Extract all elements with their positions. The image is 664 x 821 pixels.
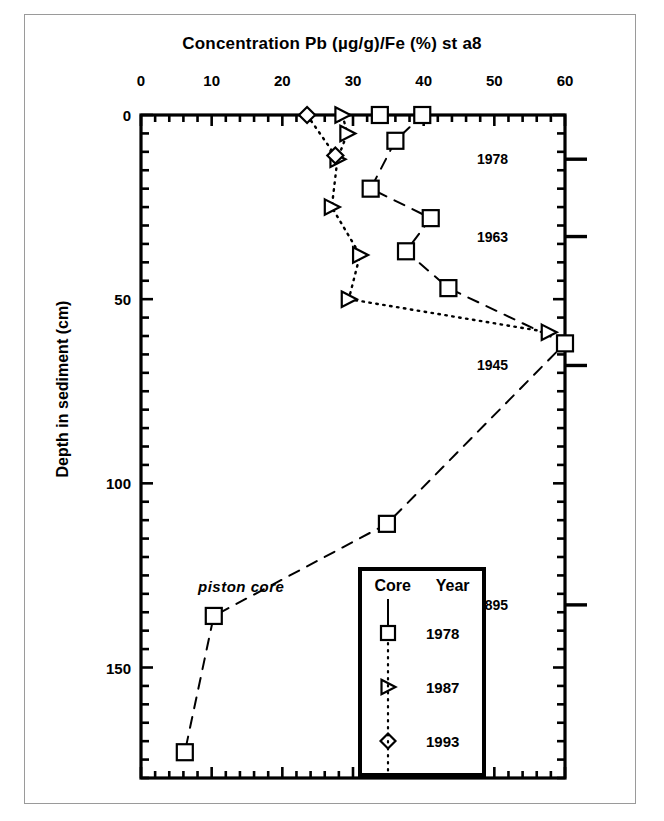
legend: Core Year 1978 1987 1993 xyxy=(358,567,486,777)
legend-header-year: Year xyxy=(436,577,470,595)
data-point-diamond xyxy=(299,107,315,123)
legend-label-1993: 1993 xyxy=(426,733,459,750)
data-point-square xyxy=(379,516,395,532)
plot-area xyxy=(0,0,664,821)
series-line-1987 xyxy=(332,115,549,332)
piston-core-annotation: piston core xyxy=(198,578,284,595)
data-point-square xyxy=(557,335,573,351)
data-point-triangle-right xyxy=(542,325,557,340)
diamond-marker-icon xyxy=(377,730,399,752)
legend-header-core: Core xyxy=(374,577,410,595)
data-point-square xyxy=(423,210,439,226)
data-point-square xyxy=(414,107,430,123)
data-point-triangle-right xyxy=(340,126,355,141)
legend-header: Core Year xyxy=(362,577,482,595)
series-line-1993 xyxy=(307,115,335,156)
data-point-triangle-right xyxy=(382,680,396,694)
legend-row-1993: 1993 xyxy=(362,721,482,761)
triangle-right-marker-icon xyxy=(377,676,399,698)
data-point-square xyxy=(372,107,388,123)
data-point-square xyxy=(440,280,456,296)
data-point-square xyxy=(398,243,414,259)
data-point-diamond xyxy=(381,734,396,749)
data-point-square xyxy=(381,626,395,640)
data-point-square xyxy=(363,181,379,197)
square-marker-icon xyxy=(377,622,399,644)
data-point-square xyxy=(387,133,403,149)
data-point-triangle-right xyxy=(353,247,368,262)
plot-frame xyxy=(141,115,565,778)
figure-canvas: Concentration Pb (µg/g)/Fe (%) st a8 010… xyxy=(0,0,664,821)
data-point-triangle-right xyxy=(335,107,350,122)
legend-label-1978: 1978 xyxy=(426,625,459,642)
legend-row-1987: 1987 xyxy=(362,667,482,707)
legend-label-1987: 1987 xyxy=(426,679,459,696)
data-point-square xyxy=(206,608,222,624)
data-point-triangle-right xyxy=(325,199,340,214)
legend-row-1978: 1978 xyxy=(362,613,482,653)
data-point-square xyxy=(177,744,193,760)
